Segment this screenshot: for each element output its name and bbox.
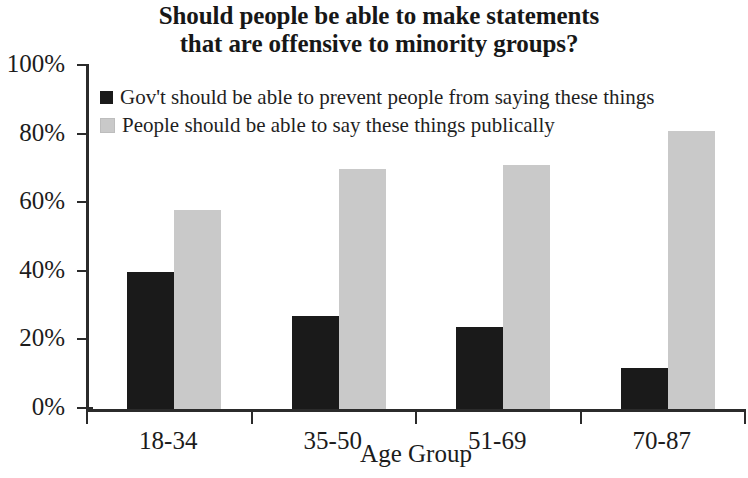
- bar[interactable]: [339, 169, 386, 409]
- bar-group: [86, 66, 251, 409]
- bar-group: [415, 66, 580, 409]
- x-axis-tick: [415, 412, 417, 424]
- x-axis-tick: [251, 412, 253, 424]
- bar[interactable]: [456, 327, 503, 409]
- chart-title-line-2: that are offensive to minority groups?: [96, 30, 662, 58]
- bar[interactable]: [127, 272, 174, 409]
- bar[interactable]: [174, 210, 221, 409]
- chart-title-line-1: Should people be able to make statements: [96, 2, 662, 30]
- x-axis-tick: [86, 412, 88, 424]
- chart-figure: Should people be able to make statements…: [0, 0, 748, 478]
- y-axis-tick-label: 100%: [7, 51, 65, 76]
- plot-area: 0%20%40%60%80%100% Gov't should be able …: [86, 66, 744, 409]
- y-axis-tick-label: 80%: [19, 120, 65, 145]
- bar-group: [251, 66, 416, 409]
- bar[interactable]: [621, 368, 668, 409]
- y-axis-tick-label: 20%: [19, 325, 65, 350]
- x-axis-tick: [744, 412, 746, 424]
- bar-groups: [86, 66, 744, 409]
- bar-group: [580, 66, 745, 409]
- chart-title: Should people be able to make statements…: [96, 2, 662, 58]
- bar[interactable]: [292, 316, 339, 409]
- x-axis-title: Age Group: [86, 441, 746, 467]
- y-axis-tick-label: 60%: [19, 188, 65, 213]
- y-axis-tick-label: 40%: [19, 257, 65, 282]
- y-axis-tick-label: 0%: [32, 394, 65, 419]
- x-axis-tick: [580, 412, 582, 424]
- bar[interactable]: [503, 165, 550, 409]
- bar[interactable]: [668, 131, 715, 409]
